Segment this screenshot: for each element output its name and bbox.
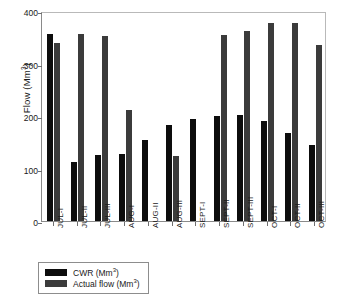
bar-group <box>166 13 179 221</box>
bar-group <box>142 13 155 221</box>
bar-group <box>190 13 203 221</box>
legend-item-cwr: CWR (Mm3) <box>45 267 140 278</box>
bar-actual-flow <box>244 31 250 221</box>
y-axis-title-base: Flow (Mm <box>21 70 32 113</box>
x-axis-tick-mark <box>124 222 125 226</box>
y-axis-tick-label: 200 <box>16 114 38 122</box>
bar-actual-flow <box>316 45 322 221</box>
bars-layer <box>42 13 325 221</box>
x-axis-tick-label: SEPT-III <box>246 197 255 228</box>
bar-cwr <box>47 34 53 221</box>
bar-cwr <box>95 155 101 221</box>
legend-item-actual-flow: Actual flow (Mm3) <box>45 278 140 289</box>
x-axis-tick-label: SEPT-I <box>198 201 207 228</box>
bar-group <box>285 13 298 221</box>
y-axis-title: Flow (Mm3) <box>20 18 32 158</box>
bar-actual-flow <box>221 35 227 221</box>
x-axis-tick-label: JUL-III <box>103 203 112 228</box>
x-axis-tick-mark <box>290 222 291 226</box>
bar-actual-flow <box>102 36 108 221</box>
bar-cwr <box>309 145 315 221</box>
x-axis-tick-label: SEPT-II <box>222 199 231 228</box>
bar-actual-flow <box>268 23 274 221</box>
x-axis-tick-mark <box>100 222 101 226</box>
legend-swatch-actual-flow <box>45 280 67 287</box>
x-axis-tick-mark <box>219 222 220 226</box>
y-axis-tick-label: 100 <box>16 167 38 175</box>
bar-cwr <box>142 140 148 221</box>
legend-label-cwr: CWR (Mm3) <box>73 267 119 278</box>
plot-area: 0100200300400 <box>41 12 326 222</box>
bar-cwr <box>190 119 196 221</box>
bar-cwr <box>261 121 267 221</box>
bar-cwr <box>119 154 125 221</box>
bar-cwr <box>285 133 291 221</box>
y-axis-tick-label: 0 <box>16 219 38 227</box>
x-axis-tick-label: JUL-II <box>80 205 89 228</box>
x-axis-tick-label: AUG-III <box>175 200 184 228</box>
x-axis-tick-mark <box>172 222 173 226</box>
y-axis-tick-label: 300 <box>16 62 38 70</box>
legend-label-actual-flow: Actual flow (Mm3) <box>73 278 140 289</box>
x-axis-tick-label: AUG-I <box>127 205 136 228</box>
bar-cwr <box>166 125 172 221</box>
x-axis-tick-mark <box>243 222 244 226</box>
x-axis-tick-label: OCT-II <box>293 203 302 228</box>
bar-actual-flow <box>54 43 60 222</box>
bar-actual-flow <box>292 23 298 221</box>
x-axis-tick-label: AUG-II <box>151 202 160 228</box>
bar-group <box>47 13 60 221</box>
bar-cwr <box>71 162 77 221</box>
x-axis-tick-mark <box>77 222 78 226</box>
x-axis-tick-mark <box>53 222 54 226</box>
bar-cwr <box>214 116 220 221</box>
bar-cwr <box>237 115 243 221</box>
x-axis-tick-mark <box>148 222 149 226</box>
y-axis-tick-label: 400 <box>16 9 38 17</box>
x-axis-tick-mark <box>195 222 196 226</box>
bar-group <box>214 13 227 221</box>
x-axis-tick-mark <box>314 222 315 226</box>
x-axis-tick-mark <box>267 222 268 226</box>
bar-chart-figure: Flow (Mm3) 0100200300400 JUL-IJUL-IIJUL-… <box>0 0 340 298</box>
bar-group <box>71 13 84 221</box>
x-axis-tick-label: OCT-III <box>317 201 326 228</box>
legend-swatch-cwr <box>45 269 67 276</box>
chart-legend: CWR (Mm3) Actual flow (Mm3) <box>38 262 149 294</box>
bar-group <box>95 13 108 221</box>
bar-group <box>119 13 132 221</box>
x-axis-tick-label: OCT-I <box>270 206 279 228</box>
bar-group <box>261 13 274 221</box>
bar-group <box>309 13 322 221</box>
bar-group <box>237 13 250 221</box>
bar-actual-flow <box>78 34 84 221</box>
x-axis-tick-label: JUL-I <box>56 208 65 228</box>
